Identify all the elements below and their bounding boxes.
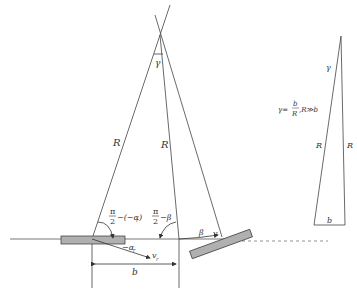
- svg-text:b: b: [293, 100, 298, 108]
- svg-text:r: r: [133, 247, 136, 253]
- inset-R-right-label: R: [346, 141, 353, 150]
- angle-arc-middle: [160, 222, 176, 238]
- b-dimension-label: b: [132, 267, 138, 277]
- radius-left: [92, 35, 160, 239]
- beta-label: β: [198, 228, 204, 237]
- svg-text:2: 2: [110, 217, 115, 226]
- svg-text:r: r: [156, 256, 159, 262]
- gamma-label: γ: [155, 58, 161, 68]
- vr-label: v r: [152, 251, 159, 262]
- svg-text:γ=: γ=: [278, 106, 288, 114]
- radius-right-ext: [160, 5, 170, 35]
- svg-text:2: 2: [153, 217, 158, 226]
- svg-text:R: R: [291, 110, 298, 118]
- radius-right: [155, 15, 222, 237]
- svg-text:): ): [138, 213, 142, 222]
- inset-gamma-label: γ: [326, 63, 331, 72]
- inset-R-left-label: R: [315, 141, 322, 150]
- svg-text:,R≫b: ,R≫b: [299, 106, 318, 114]
- v-label: v: [213, 229, 218, 238]
- left-blade: [61, 236, 125, 244]
- radius-middle: [160, 35, 179, 239]
- inset-formula: γ= b R ,R≫b: [278, 100, 318, 118]
- svg-text:−β: −β: [160, 213, 172, 222]
- angle-left-label: π 2 −(−α r ): [109, 207, 142, 226]
- R-middle-label: R: [160, 139, 169, 150]
- R-left-label: R: [112, 137, 121, 148]
- geometry-diagram: γ R R π 2 −(−α r ) π 2 −β −α r v r β v b…: [0, 0, 357, 295]
- svg-text:π: π: [110, 207, 115, 216]
- inset-b-label: b: [327, 216, 332, 225]
- neg-alpha-label: −α r: [122, 243, 136, 253]
- angle-middle-label: π 2 −β: [152, 207, 172, 226]
- svg-text:π: π: [153, 207, 158, 216]
